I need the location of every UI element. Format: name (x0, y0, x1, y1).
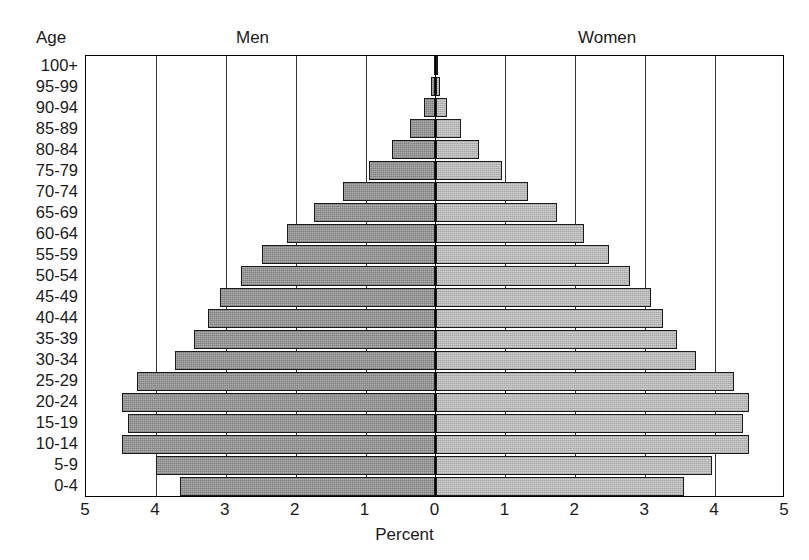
bar-women (436, 161, 502, 180)
age-group-label: 20-24 (0, 393, 78, 410)
age-group-label: 75-79 (0, 162, 78, 179)
women-series-label: Women (578, 28, 636, 47)
age-group-axis-labels: 100+95-9990-9485-8980-8475-7970-7465-696… (0, 55, 78, 497)
bar-men (208, 309, 435, 328)
bar-men (262, 245, 435, 264)
bar-women (436, 182, 529, 201)
bar-women (436, 477, 684, 496)
bar-men (343, 182, 436, 201)
bar-women (436, 98, 448, 117)
bar-women (436, 224, 585, 243)
x-axis-title: Percent (0, 525, 809, 545)
bar-men (241, 266, 435, 285)
bar-women (436, 266, 630, 285)
bar-men (410, 119, 436, 138)
x-tick-label: 2 (554, 500, 594, 520)
x-tick-label: 5 (764, 500, 804, 520)
age-group-label: 60-64 (0, 225, 78, 242)
bar-women (436, 393, 749, 412)
age-group-label: 95-99 (0, 78, 78, 95)
age-group-label: 55-59 (0, 246, 78, 263)
bar-men (392, 140, 435, 159)
x-tick-label: 0 (415, 500, 455, 520)
x-tick-label: 3 (205, 500, 245, 520)
bar-men (156, 456, 436, 475)
age-group-label: 25-29 (0, 372, 78, 389)
x-tick-label: 1 (345, 500, 385, 520)
bar-women (436, 372, 734, 391)
bar-women (436, 140, 479, 159)
center-axis-line (435, 56, 437, 496)
age-group-label: 100+ (0, 57, 78, 74)
percent-axis-tick-labels: 54321012345 (0, 500, 809, 526)
age-group-label: 45-49 (0, 288, 78, 305)
age-group-label: 40-44 (0, 309, 78, 326)
x-tick-label: 2 (275, 500, 315, 520)
x-tick-label: 1 (484, 500, 524, 520)
age-group-label: 10-14 (0, 435, 78, 452)
age-group-label: 90-94 (0, 99, 78, 116)
bar-men (287, 224, 436, 243)
men-series-label: Men (236, 28, 269, 47)
bar-men (194, 330, 435, 349)
bar-men (137, 372, 435, 391)
age-group-label: 5-9 (0, 456, 78, 473)
bar-women (436, 330, 677, 349)
age-group-label: 70-74 (0, 183, 78, 200)
bar-women (436, 435, 749, 454)
age-group-label: 35-39 (0, 330, 78, 347)
plot-area (85, 55, 784, 497)
bar-men (128, 414, 436, 433)
bar-women (436, 456, 712, 475)
age-group-label: 30-34 (0, 351, 78, 368)
bar-women (436, 309, 663, 328)
bar-women (436, 288, 651, 307)
age-group-label: 85-89 (0, 120, 78, 137)
age-group-label: 0-4 (0, 477, 78, 494)
age-group-label: 65-69 (0, 204, 78, 221)
bar-men (180, 477, 435, 496)
bar-women (436, 203, 558, 222)
bar-women (436, 119, 462, 138)
bar-men (369, 161, 435, 180)
age-column-header: Age (36, 28, 66, 47)
bar-women (436, 414, 744, 433)
x-tick-label: 3 (624, 500, 664, 520)
bar-men (314, 203, 436, 222)
age-group-label: 15-19 (0, 414, 78, 431)
bar-women (436, 245, 609, 264)
age-group-label: 50-54 (0, 267, 78, 284)
bar-men (175, 351, 436, 370)
x-tick-label: 5 (65, 500, 105, 520)
bar-men (122, 393, 435, 412)
x-tick-label: 4 (694, 500, 734, 520)
bar-men (122, 435, 435, 454)
population-pyramid-chart: Age Men Women 100+95-9990-9485-8980-8475… (0, 0, 809, 560)
bar-women (436, 351, 697, 370)
bar-men (220, 288, 435, 307)
x-tick-label: 4 (135, 500, 175, 520)
age-group-label: 80-84 (0, 141, 78, 158)
